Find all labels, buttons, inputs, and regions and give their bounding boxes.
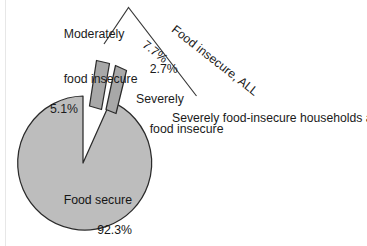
label-food-secure: Food secure 92.3% <box>20 178 132 246</box>
label-food-secure-percent: 92.3% <box>20 223 132 238</box>
description-paragraph: Severely food-insecure households are un… <box>172 110 367 126</box>
label-moderately-line1: Moderately <box>64 27 125 41</box>
label-moderately-percent: 5.1% <box>50 102 138 117</box>
label-food-secure-name: Food secure <box>64 193 132 207</box>
label-moderately-food-insecure: Moderately food insecure 5.1% <box>50 12 138 147</box>
food-security-figure: Moderately food insecure 5.1% 2.7% Sever… <box>0 0 367 246</box>
